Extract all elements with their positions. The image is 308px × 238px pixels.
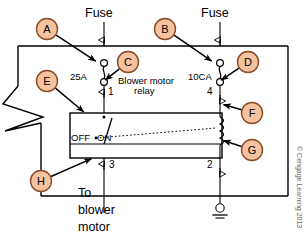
callout-label-e: E [37,71,57,91]
left-feed-circuit [101,22,108,113]
destination-line2: blower [78,203,115,217]
callout-label-g: G [242,140,262,160]
callout-leader-g [223,140,241,146]
callout-leader-a [56,35,96,61]
fuse-right-rating-label: 10CA [188,72,212,83]
right-feed-circuit [217,22,224,113]
break-line-icon [3,86,43,131]
callout-layer [31,19,263,192]
ground-icon [213,204,228,218]
relay-body-box [70,113,222,158]
callout-label-h: H [31,171,51,191]
destination-line3: motor [78,220,110,234]
fuse-icon-right [217,60,224,86]
fuse-icon-left [101,60,108,86]
fuse-right-label: Fuse [201,6,229,20]
callout-label-b: B [155,19,175,39]
terminal-2-label: 2 [207,159,213,170]
callout-leader-f [223,104,241,109]
fuse-left-label: Fuse [85,6,113,20]
wiring-diagram-figure: Fuse Fuse 25A 10CA Blower motor relay 1 … [0,0,308,238]
terminal-2-ground-wire [213,158,228,218]
callout-leader-b [174,35,212,61]
callout-label-f: F [242,103,262,123]
relay-title-line2: relay [134,86,155,97]
callout-label-d: D [238,52,258,72]
switch-off-label: OFF [71,133,90,144]
terminal-3-label: 3 [109,159,115,170]
callout-leader-e [55,88,83,112]
callout-label-c: C [118,52,138,72]
fuse-left-rating-label: 25A [70,72,87,83]
copyright-credit: © Cengage Learning 2013 [296,146,303,228]
switch-on-label: ON [97,133,111,144]
destination-line1: To [78,186,91,200]
terminal-1-label: 1 [108,86,114,97]
terminal-4-label: 4 [207,86,213,97]
callout-leader-d [221,68,239,80]
callout-label-a: A [37,19,57,39]
callout-leader-h [51,159,92,177]
relay-switch-contact-icon [95,116,216,145]
